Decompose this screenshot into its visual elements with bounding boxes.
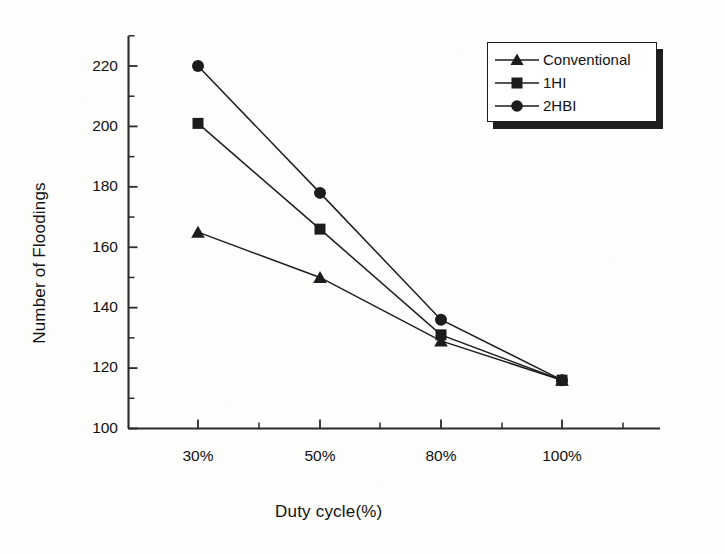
- x-axis-title: Duty cycle(%): [275, 502, 382, 522]
- data-point-triangle: [313, 271, 327, 283]
- legend-item-conventional: Conventional: [494, 48, 649, 71]
- square-icon: [494, 75, 540, 91]
- x-tick-label-100: 100%: [527, 447, 597, 465]
- circle-icon: [494, 98, 540, 114]
- legend-item-1hi: 1HI: [494, 71, 649, 94]
- data-point-triangle: [191, 226, 205, 238]
- triangle-icon: [494, 52, 540, 68]
- y-tick-label-220: 220: [72, 57, 118, 75]
- y-tick-label-180: 180: [72, 177, 118, 195]
- legend-label-conventional: Conventional: [543, 51, 631, 68]
- series-line-conventional: [198, 232, 562, 380]
- data-point-square: [315, 224, 326, 235]
- data-point-circle: [435, 314, 447, 326]
- legend-item-2hbi: 2HBI: [494, 94, 649, 117]
- x-tick-label-50: 50%: [285, 447, 355, 465]
- y-tick-label-160: 160: [72, 238, 118, 256]
- y-tick-label-120: 120: [72, 358, 118, 376]
- y-axis-title: Number of Floodings: [30, 153, 50, 373]
- legend-label-1hi: 1HI: [543, 74, 566, 91]
- legend-label-2hbi: 2HBI: [543, 97, 576, 114]
- y-tick-label-140: 140: [72, 298, 118, 316]
- y-tick-label-100: 100: [72, 419, 118, 437]
- data-point-square: [436, 329, 447, 340]
- data-point-square: [193, 118, 204, 129]
- chart-figure: 220 200 180 160 140 120 100 30% 50% 80% …: [0, 0, 725, 554]
- data-point-circle: [556, 374, 568, 386]
- data-point-circle: [314, 187, 326, 199]
- x-tick-label-30: 30%: [163, 447, 233, 465]
- x-tick-label-80: 80%: [406, 447, 476, 465]
- data-point-circle: [192, 60, 204, 72]
- y-tick-label-200: 200: [72, 117, 118, 135]
- chart-legend: Conventional 1HI 2HBI: [487, 42, 657, 122]
